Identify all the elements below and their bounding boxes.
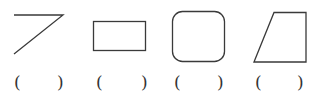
rectangle-shape [94, 22, 146, 51]
answer-3-open-paren: ( [174, 72, 181, 92]
answer-1-close-paren: ) [57, 72, 64, 92]
angle-line-shape [14, 15, 63, 54]
answer-2-close-paren: ) [141, 72, 148, 92]
answer-1-open-paren: ( [14, 72, 21, 92]
answer-3-close-paren: ) [217, 72, 224, 92]
shapes-canvas [0, 0, 314, 94]
answer-4-open-paren: ( [255, 72, 262, 92]
rounded-square-shape [173, 12, 225, 62]
trapezoid-shape [254, 13, 306, 63]
answer-4-close-paren: ) [297, 72, 304, 92]
answer-2-open-paren: ( [96, 72, 103, 92]
